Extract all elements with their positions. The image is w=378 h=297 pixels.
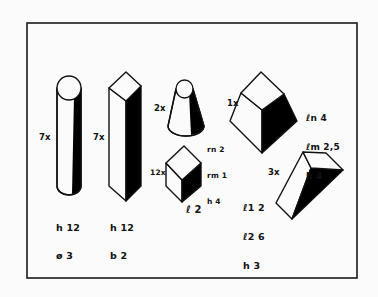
cylinder-diameter-label: ø 3 xyxy=(56,251,80,261)
wedge-edge2-label: ℓ2 6 xyxy=(243,231,265,242)
wedge-dimensions: ℓ1 2 ℓ2 6 h 3 xyxy=(243,184,265,289)
wedge-edge1-label: ℓ1 2 xyxy=(243,202,265,213)
truncated-pyramid-count-label: 1x xyxy=(227,99,239,108)
truncated-cone-height-label: h 4 xyxy=(207,198,227,206)
cylinder-count-label: 7x xyxy=(39,133,51,142)
square-prism-count-label: 7x xyxy=(93,133,105,142)
cylinder-height-label: h 12 xyxy=(56,223,80,233)
square-prism-dimensions: h 12 b 2 xyxy=(110,205,134,278)
truncated-cone-dimensions: rn 2 rm 1 h 4 xyxy=(207,128,227,224)
square-prism-base-label: b 2 xyxy=(110,251,134,261)
truncated-cone-top-radius-label: rm 1 xyxy=(207,172,227,180)
wedge-height-label: h 3 xyxy=(243,260,265,271)
truncated-pyramid-height-label: h 4 xyxy=(306,171,340,182)
cylinder-shape xyxy=(57,76,81,195)
square-prism-height-label: h 12 xyxy=(110,223,134,233)
cylinder-dimensions: h 12 ø 3 xyxy=(56,205,80,278)
cube-edge-label: ℓ 2 xyxy=(186,205,202,214)
cube-count-label: 12x xyxy=(150,168,166,177)
truncated-cone-bottom-radius-label: rn 2 xyxy=(207,146,227,154)
wedge-count-label: 3x xyxy=(268,168,280,177)
square-prism-shape xyxy=(109,72,141,201)
truncated-pyramid-bottom-edge-label: ℓn 4 xyxy=(306,113,340,124)
truncated-pyramid-dimensions: ℓn 4 ℓm 2,5 h 4 xyxy=(306,95,340,200)
truncated-cone-count-label: 2x xyxy=(154,104,166,113)
truncated-pyramid-top-edge-label: ℓm 2,5 xyxy=(306,142,340,153)
